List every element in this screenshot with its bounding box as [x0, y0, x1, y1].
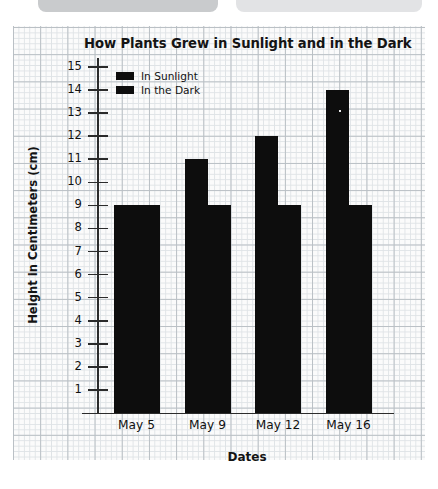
chart-title: How Plants Grew in Sunlight and in the D…	[84, 36, 432, 51]
chart-legend: In SunlightIn the Dark	[116, 69, 200, 97]
bar-speck-artifact	[339, 110, 341, 112]
y-tick-label-9: 9	[46, 197, 82, 211]
legend-swatch-icon-0	[116, 72, 134, 80]
y-tick-label-8: 8	[46, 220, 82, 234]
legend-swatch-icon-1	[116, 86, 134, 94]
y-tick-label-5: 5	[46, 290, 82, 304]
x-tick-label-2: May 12	[238, 418, 318, 432]
y-tick-label-3: 3	[46, 336, 82, 350]
bar-0-2	[255, 136, 278, 413]
y-tick-label-1: 1	[46, 382, 82, 396]
chrome-pill-left[interactable]	[38, 0, 218, 12]
legend-item-1: In the Dark	[116, 83, 200, 96]
bar-0-1	[185, 159, 208, 413]
bar-1-1	[208, 205, 231, 413]
y-tick-3	[88, 343, 108, 345]
x-tick-label-0: May 5	[97, 418, 177, 432]
y-tick-11	[88, 158, 108, 160]
y-tick-1	[88, 389, 108, 391]
y-tick-10	[88, 182, 108, 184]
y-tick-2	[88, 366, 108, 368]
chrome-pill-right[interactable]	[236, 0, 422, 12]
x-tick-label-1: May 9	[168, 418, 248, 432]
y-tick-8	[88, 228, 108, 230]
legend-label-1: In the Dark	[141, 84, 200, 96]
y-tick-label-11: 11	[46, 151, 82, 165]
y-tick-label-10: 10	[46, 174, 82, 188]
bar-1-0	[137, 205, 160, 413]
y-tick-7	[88, 251, 108, 253]
y-tick-label-13: 13	[46, 105, 82, 119]
bar-1-2	[278, 205, 301, 413]
top-chrome-bar	[0, 0, 438, 16]
y-tick-4	[88, 320, 108, 322]
y-tick-label-12: 12	[46, 128, 82, 142]
y-tick-6	[88, 274, 108, 276]
legend-item-0: In Sunlight	[116, 69, 200, 82]
bar-1-3	[349, 205, 372, 413]
y-tick-label-6: 6	[46, 267, 82, 281]
legend-label-0: In Sunlight	[141, 70, 198, 82]
y-tick-15	[88, 66, 108, 68]
y-tick-label-4: 4	[46, 313, 82, 327]
y-axis-title: Height in Centimeters (cm)	[26, 125, 40, 345]
y-tick-5	[88, 297, 108, 299]
y-tick-13	[88, 112, 108, 114]
bar-0-0	[114, 205, 137, 413]
y-tick-label-2: 2	[46, 359, 82, 373]
bar-0-3	[326, 90, 349, 413]
x-axis-title: Dates	[97, 450, 397, 464]
y-tick-9	[88, 205, 108, 207]
y-tick-14	[88, 89, 108, 91]
x-tick-label-3: May 16	[309, 418, 389, 432]
y-tick-label-15: 15	[46, 59, 82, 73]
y-tick-label-7: 7	[46, 244, 82, 258]
y-tick-12	[88, 135, 108, 137]
y-tick-label-14: 14	[46, 82, 82, 96]
